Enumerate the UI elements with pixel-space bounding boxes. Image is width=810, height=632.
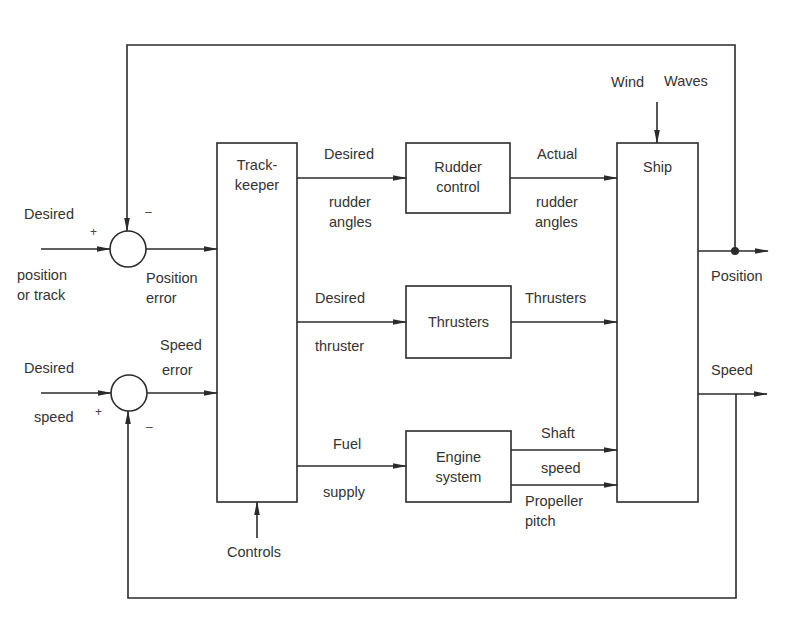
thrusters-label: Thrusters: [406, 312, 511, 332]
wind-label: Wind: [611, 74, 644, 91]
desired-position-label-2: position: [17, 267, 67, 284]
position-error-label-2: error: [146, 290, 177, 307]
speed-summing-junction: [111, 375, 147, 411]
thrusters-output-label: Thrusters: [525, 290, 586, 307]
rudder-control-label-line2: control: [406, 177, 510, 197]
shaft-speed-label: Shaft: [541, 425, 575, 442]
desired-speed-label: Desired: [24, 360, 74, 377]
trackkeeper-label-line1: Track-: [217, 155, 297, 175]
position-minus-sign: –: [145, 205, 152, 219]
speed-error-label: Speed: [160, 337, 202, 354]
ship-label-line1: Ship: [617, 157, 698, 177]
desired-rudder-label-2: rudder: [329, 194, 371, 211]
fuel-supply-label: Fuel: [333, 436, 361, 453]
propeller-pitch-label-2: pitch: [525, 513, 556, 530]
thrusters-label-line1: Thrusters: [406, 312, 511, 332]
desired-speed-label-2: speed: [34, 409, 74, 426]
shaft-speed-label-2: speed: [541, 460, 581, 477]
speed-plus-sign: +: [95, 405, 102, 419]
engine-system-label-line2: system: [406, 467, 511, 487]
engine-system-label-line1: Engine: [406, 447, 511, 467]
rudder-control-label: Rudder control: [406, 157, 510, 197]
desired-position-label: Desired: [24, 206, 74, 223]
propeller-pitch-label: Propeller: [525, 493, 583, 510]
controls-label: Controls: [227, 544, 281, 561]
trackkeeper-block: [217, 143, 297, 502]
position-plus-sign: +: [90, 225, 97, 239]
fuel-supply-label-2: supply: [323, 484, 365, 501]
waves-label: Waves: [664, 73, 708, 90]
trackkeeper-label: Track- keeper: [217, 155, 297, 195]
actual-rudder-label-3: angles: [535, 214, 578, 231]
speed-output-label: Speed: [711, 362, 753, 379]
ship-label: Ship: [617, 157, 698, 177]
position-takeoff-dot: [731, 247, 739, 255]
rudder-control-label-line1: Rudder: [406, 157, 510, 177]
desired-thruster-label-2: thruster: [315, 338, 364, 355]
speed-feedback-line: [128, 394, 736, 598]
position-summing-junction: [110, 231, 146, 267]
trackkeeper-label-line2: keeper: [217, 175, 297, 195]
ship-block: [617, 143, 698, 502]
speed-error-label-2: error: [162, 362, 193, 379]
actual-rudder-label-2: rudder: [536, 194, 578, 211]
block-diagram-canvas: [0, 0, 810, 632]
desired-position-label-3: or track: [17, 287, 65, 304]
desired-thruster-label: Desired: [315, 290, 365, 307]
engine-system-label: Engine system: [406, 447, 511, 487]
desired-rudder-label-3: angles: [329, 214, 372, 231]
desired-rudder-label: Desired: [324, 146, 374, 163]
position-output-label: Position: [711, 268, 763, 285]
actual-rudder-label: Actual: [537, 146, 577, 163]
position-error-label: Position: [146, 270, 198, 287]
speed-minus-sign: –: [146, 420, 153, 434]
